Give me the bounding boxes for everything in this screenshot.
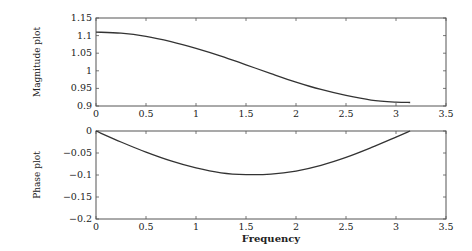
x-tick-label: 0 xyxy=(93,221,99,232)
y-tick-label: −0.1 xyxy=(69,169,92,180)
y-tick-label: −0.05 xyxy=(63,147,92,158)
phase-line xyxy=(96,131,410,175)
magnitude-plot: 00.511.522.533.50.90.9511.051.11.15Magni… xyxy=(32,12,454,119)
x-tick-label: 3 xyxy=(393,221,399,232)
y-tick-label: 0.95 xyxy=(71,82,92,93)
x-tick-label: 1 xyxy=(193,108,199,119)
y-tick-label: 0 xyxy=(86,125,92,136)
y-tick-label: 1.1 xyxy=(77,30,92,41)
magnitude-line xyxy=(96,32,410,102)
x-tick-label: 3.5 xyxy=(438,108,453,119)
y-tick-label: 1 xyxy=(86,65,92,76)
x-tick-label: 3.5 xyxy=(438,221,453,232)
y-axis-label: Phase plot xyxy=(32,151,42,199)
x-tick-label: 1 xyxy=(193,221,199,232)
y-tick-label: 1.15 xyxy=(71,12,92,23)
x-tick-label: 2.5 xyxy=(338,221,353,232)
axes-frame xyxy=(96,18,446,106)
x-tick-label: 3 xyxy=(393,108,399,119)
x-tick-label: 0.5 xyxy=(138,108,153,119)
x-tick-label: 1.5 xyxy=(238,108,253,119)
x-tick-label: 1.5 xyxy=(238,221,253,232)
phase-plot: 00.511.522.533.5−0.2−0.15−0.1−0.050Phase… xyxy=(32,125,454,244)
y-tick-label: 1.05 xyxy=(71,47,92,58)
y-axis-label: Magnitude plot xyxy=(32,27,42,97)
x-tick-label: 2 xyxy=(293,221,299,232)
x-axis-label: Frequency xyxy=(242,233,302,244)
axes-frame xyxy=(96,131,446,219)
y-tick-label: 0.9 xyxy=(77,100,92,111)
y-tick-label: −0.2 xyxy=(69,213,92,224)
x-tick-label: 2 xyxy=(293,108,299,119)
y-tick-label: −0.15 xyxy=(63,191,92,202)
x-tick-label: 0 xyxy=(93,108,99,119)
figure: 00.511.522.533.50.90.9511.051.11.15Magni… xyxy=(0,0,472,251)
x-tick-label: 2.5 xyxy=(338,108,353,119)
x-tick-label: 0.5 xyxy=(138,221,153,232)
